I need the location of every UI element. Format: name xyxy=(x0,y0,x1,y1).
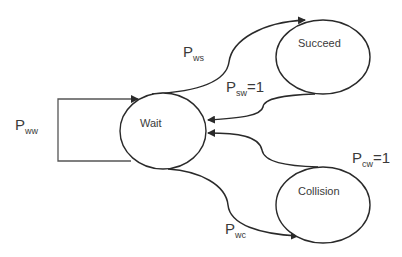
label-p-wc: Pwc xyxy=(225,220,247,240)
label-p-ws: Pws xyxy=(183,43,205,63)
edge-succeed-wait xyxy=(208,94,315,120)
label-p-sw: Psw=1 xyxy=(226,78,264,98)
state-wait-label: Wait xyxy=(140,117,162,129)
state-wait[interactable]: Wait xyxy=(120,93,206,169)
state-collision[interactable]: Collision xyxy=(276,167,370,243)
label-p-ww: Pww xyxy=(15,116,39,136)
state-succeed-label: Succeed xyxy=(298,37,341,49)
label-p-cw: Pcw=1 xyxy=(352,149,390,169)
state-succeed[interactable]: Succeed xyxy=(276,20,370,94)
state-collision-label: Collision xyxy=(298,185,340,197)
state-diagram: Wait Succeed Collision Pww Pws Psw=1 Pcw… xyxy=(0,0,402,257)
diagram-svg: Wait Succeed Collision Pww Pws Psw=1 Pcw… xyxy=(0,0,402,257)
edge-collision-wait xyxy=(208,133,318,167)
